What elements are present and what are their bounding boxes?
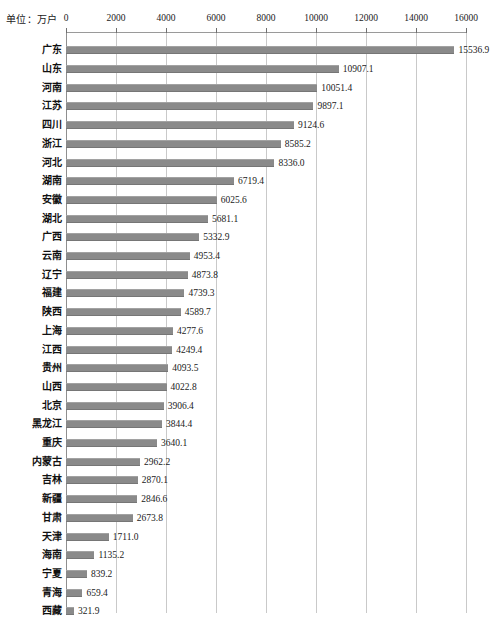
value-label: 5332.9 (203, 232, 229, 243)
bar (66, 533, 109, 541)
bar (66, 476, 138, 484)
category-label: 宁夏 (42, 568, 62, 580)
bar (66, 196, 217, 204)
category-label: 安徽 (42, 194, 62, 206)
bar-row: 福建4739.3 (66, 284, 466, 303)
category-label: 江西 (42, 344, 62, 356)
bar (66, 346, 172, 354)
value-label: 1711.0 (113, 531, 139, 542)
bar-row: 上海4277.6 (66, 322, 466, 341)
x-tick-label: 4000 (157, 13, 176, 24)
bar-row: 山东10907.1 (66, 60, 466, 79)
bar (66, 252, 190, 260)
category-label: 辽宁 (42, 269, 62, 281)
bar-row: 贵州4093.5 (66, 359, 466, 378)
value-label: 4739.3 (188, 288, 214, 299)
bar (66, 102, 313, 110)
bar (66, 327, 173, 335)
x-tick-label: 6000 (207, 13, 226, 24)
category-label: 浙江 (42, 138, 62, 150)
value-label: 4953.4 (194, 251, 220, 262)
value-label: 10907.1 (343, 64, 374, 75)
x-tick-mark (366, 28, 367, 33)
value-label: 8336.0 (278, 157, 304, 168)
value-label: 5681.1 (212, 213, 238, 224)
category-label: 天津 (42, 531, 62, 543)
value-label: 2673.8 (137, 512, 163, 523)
bar-row: 陕西4589.7 (66, 303, 466, 322)
x-tick-mark (466, 28, 467, 33)
value-label: 3640.1 (161, 438, 187, 449)
value-label: 4022.8 (171, 381, 197, 392)
category-label: 甘肃 (42, 512, 62, 524)
category-label: 新疆 (42, 493, 62, 505)
bar-row: 吉林2870.1 (66, 471, 466, 490)
bar-row: 黑龙江3844.4 (66, 415, 466, 434)
unit-caption: 单位：万户 (6, 14, 58, 26)
bar (66, 308, 181, 316)
bar-row: 重庆3640.1 (66, 434, 466, 453)
category-label: 上海 (42, 325, 62, 337)
value-label: 4873.8 (192, 269, 218, 280)
plot-area: 0200040006000800010000120001400016000广东1… (66, 33, 466, 613)
gridline-16000 (466, 33, 467, 613)
category-label: 黑龙江 (32, 418, 62, 430)
category-label: 青海 (42, 587, 62, 599)
x-tick-label: 10000 (304, 13, 328, 24)
bar-row: 内蒙古2962.2 (66, 452, 466, 471)
category-label: 吉林 (42, 474, 62, 486)
category-label: 内蒙古 (32, 456, 62, 468)
bar-row: 辽宁4873.8 (66, 265, 466, 284)
category-label: 湖北 (42, 213, 62, 225)
category-label: 山西 (42, 381, 62, 393)
x-tick-mark (166, 28, 167, 33)
category-label: 河南 (42, 82, 62, 94)
category-label: 河北 (42, 157, 62, 169)
value-label: 8585.2 (285, 138, 311, 149)
bar (66, 383, 167, 391)
bar-row: 浙江8585.2 (66, 135, 466, 154)
bar-row: 江西4249.4 (66, 340, 466, 359)
x-tick-mark (216, 28, 217, 33)
value-label: 4249.4 (176, 344, 202, 355)
value-label: 6719.4 (238, 176, 264, 187)
bar (66, 177, 234, 185)
bar (66, 551, 94, 559)
bar-row: 河南10051.4 (66, 78, 466, 97)
bar (66, 420, 162, 428)
x-tick-mark (66, 28, 67, 33)
value-label: 321.9 (78, 606, 99, 617)
category-label: 山东 (42, 63, 62, 75)
bar-row: 青海659.4 (66, 583, 466, 602)
value-label: 9124.6 (298, 120, 324, 131)
x-tick-mark (266, 28, 267, 33)
bar-chart: 单位：万户 0200040006000800010000120001400016… (0, 0, 500, 625)
bar-row: 西藏321.9 (66, 602, 466, 621)
bar-row: 甘肃2673.8 (66, 509, 466, 528)
x-tick-mark (416, 28, 417, 33)
bar-row: 天津1711.0 (66, 527, 466, 546)
bar-row: 江苏9897.1 (66, 97, 466, 116)
value-label: 1135.2 (98, 550, 124, 561)
value-label: 4093.5 (172, 363, 198, 374)
category-label: 江苏 (42, 100, 62, 112)
bar (66, 495, 137, 503)
bar-row: 广西5332.9 (66, 228, 466, 247)
x-tick-label: 0 (64, 13, 69, 24)
category-label: 贵州 (42, 362, 62, 374)
bar-row: 北京3906.4 (66, 396, 466, 415)
bar (66, 607, 74, 615)
category-label: 福建 (42, 287, 62, 299)
category-label: 重庆 (42, 437, 62, 449)
category-label: 云南 (42, 250, 62, 262)
bar-row: 宁夏839.2 (66, 565, 466, 584)
bar-row: 湖南6719.4 (66, 172, 466, 191)
bar-row: 安徽6025.6 (66, 191, 466, 210)
bar (66, 215, 208, 223)
bar (66, 159, 274, 167)
x-tick-label: 8000 (257, 13, 276, 24)
bar (66, 84, 317, 92)
x-tick-label: 16000 (454, 13, 478, 24)
bar (66, 458, 140, 466)
bar (66, 233, 199, 241)
